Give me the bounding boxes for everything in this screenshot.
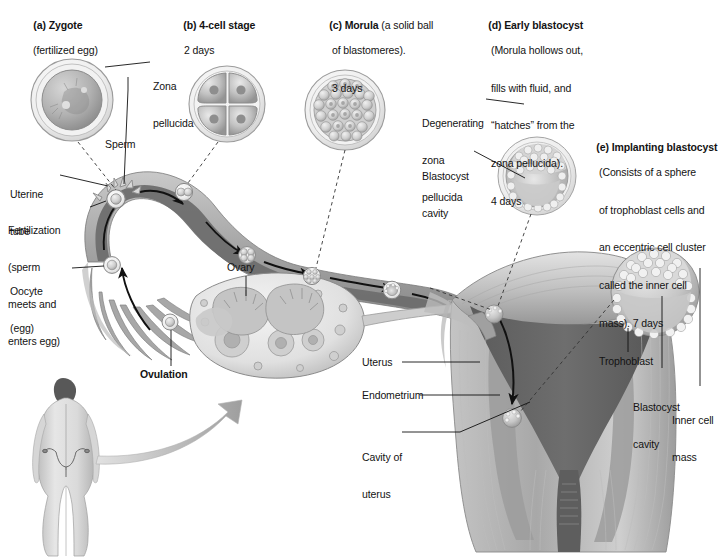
- stage-d-line-5: 4 days: [477, 195, 583, 208]
- figure-canvas: (a) Zygote (fertilized egg) (b) 4-cell s…: [0, 0, 721, 558]
- blastocyst-cavity-d-line-1: Blastocyst: [422, 170, 469, 182]
- stage-e-marker: (e): [596, 141, 609, 153]
- oocyte-title: Oocyte: [10, 285, 43, 297]
- stage-e-header: (e) Implanting blastocyst (Consists of a…: [585, 128, 718, 355]
- hatched-blastocyst: [485, 305, 503, 323]
- uterus-label: Uterus: [362, 356, 392, 368]
- stage-c-marker: (c): [329, 19, 342, 31]
- stage-d-marker: (d): [488, 19, 501, 31]
- stage-e-line-2: of trophoblast cells and: [585, 204, 718, 217]
- stage-d-line-1: (Morula hollows out,: [477, 44, 583, 57]
- cervical-canal: [557, 470, 582, 552]
- stage-e-line-1: (Consists of a sphere: [585, 166, 718, 179]
- stage-a-line-1: (fertilized egg): [22, 44, 98, 57]
- female-body-figure: [33, 378, 100, 556]
- stage-a-header: (a) Zygote (fertilized egg): [22, 6, 98, 82]
- stage-e-line-3: an eccentric cell cluster: [585, 241, 718, 254]
- stage-d-line-2: fills with fluid, and: [477, 82, 583, 95]
- oocyte-label: Oocyte (egg): [10, 260, 43, 359]
- endometrium-label: Endometrium: [362, 389, 423, 401]
- cavity-of-uterus-label: Cavity of uterus: [362, 426, 402, 525]
- cavity-of-uterus-line-2: uterus: [362, 488, 402, 500]
- blastocyst-cavity-d-label: Blastocyst cavity: [422, 145, 469, 244]
- stage-c-name: Morula: [345, 19, 379, 31]
- two-cell-in-tube: [175, 183, 192, 200]
- stage-d-name: Early blastocyst: [504, 19, 583, 31]
- zona-pellucida-line-2: pellucida: [153, 117, 194, 129]
- degenerating-zona-line-1: Degenerating: [422, 117, 484, 129]
- stage-a-marker: (a): [33, 19, 46, 31]
- stage-c-line-1: (a solid ball: [381, 19, 433, 31]
- fertilization-title: Fertilization: [8, 224, 60, 236]
- stage-c-header: (c) Morula (a solid ball of blastomeres)…: [318, 6, 433, 119]
- sperm-label: Sperm: [105, 138, 135, 150]
- zona-pellucida-line-1: Zona: [153, 80, 194, 92]
- stage-d-line-3: “hatches” from the: [477, 119, 583, 132]
- implanting-blastocyst-site: [503, 409, 522, 428]
- ovary-label: Ovary: [227, 261, 255, 273]
- stage-d-header: (d) Early blastocyst (Morula hollows out…: [477, 6, 583, 233]
- cavity-of-uterus-line-1: Cavity of: [362, 451, 402, 463]
- stage-e-name: Implanting blastocyst: [612, 141, 718, 153]
- inner-cell-mass-label: Inner cell mass: [672, 389, 714, 488]
- zona-pellucida-label: Zona pellucida: [153, 55, 194, 154]
- stage-e-line-4: called the inner cell: [585, 279, 718, 292]
- ovulation-oocyte: [162, 314, 178, 330]
- blastocyst-cavity-d-line-2: cavity: [422, 207, 469, 219]
- oocyte-sub: (egg): [10, 322, 43, 334]
- zoom-pointer-arrow: [96, 400, 242, 464]
- stage-a-name: Zygote: [49, 19, 83, 31]
- inner-cell-mass-line-1: Inner cell: [672, 414, 714, 426]
- stage-e-line-5: mass). 7 days: [585, 317, 718, 330]
- morula-in-tube: [303, 267, 320, 284]
- oocyte-in-tube: [104, 257, 121, 274]
- trophoblast-label: Trophoblast: [599, 355, 653, 367]
- stage-c-line-2: of blastomeres).: [318, 44, 433, 57]
- stage-c-line-3: 3 days: [318, 82, 433, 95]
- stage-d-line-4: zona pellucida).: [477, 157, 583, 170]
- stage-b-marker: (b): [183, 19, 196, 31]
- early-blastocyst-in-tube: [383, 281, 401, 299]
- stage-b-name: 4-cell stage: [199, 19, 255, 31]
- ovulation-label: Ovulation: [140, 368, 188, 380]
- inner-cell-mass-line-2: mass: [672, 451, 714, 463]
